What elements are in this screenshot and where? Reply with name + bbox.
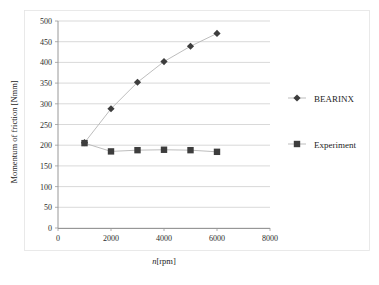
data-point-square: [161, 147, 167, 153]
y-tick-label: 100: [40, 183, 52, 192]
x-tick-label: 6000: [209, 234, 225, 243]
y-tick-label: 350: [40, 79, 52, 88]
x-axis-title-unit: [rpm]: [156, 256, 176, 266]
y-tick-label: 300: [40, 100, 52, 109]
data-point-square: [81, 140, 87, 146]
chart-container: 050100150200250300350400450500 020004000…: [0, 0, 379, 285]
x-tick-label: 4000: [156, 234, 172, 243]
x-tick-label: 0: [56, 234, 60, 243]
x-tick-label: 2000: [103, 234, 119, 243]
friction-momentum-line-chart: 050100150200250300350400450500 020004000…: [0, 0, 379, 285]
y-tick-label: 200: [40, 141, 52, 150]
y-tick-label: 450: [40, 38, 52, 47]
data-point-square: [134, 147, 140, 153]
y-axis-title: Momentum of friction [Nmm]: [9, 80, 19, 183]
data-point-square: [214, 149, 220, 155]
y-tick-label: 250: [40, 121, 52, 130]
y-tick-label: 50: [44, 203, 52, 212]
legend-label: BEARINX: [314, 94, 354, 104]
x-tick-label: 8000: [262, 234, 278, 243]
y-tick-label: 500: [40, 17, 52, 26]
y-tick-label: 0: [48, 224, 52, 233]
data-point-square: [294, 141, 300, 147]
x-axis-title: n[rpm]: [152, 256, 176, 266]
data-point-square: [187, 147, 193, 153]
y-tick-label: 400: [40, 58, 52, 67]
legend-label: Experiment: [314, 140, 356, 150]
data-point-square: [108, 148, 114, 154]
y-tick-label: 150: [40, 162, 52, 171]
